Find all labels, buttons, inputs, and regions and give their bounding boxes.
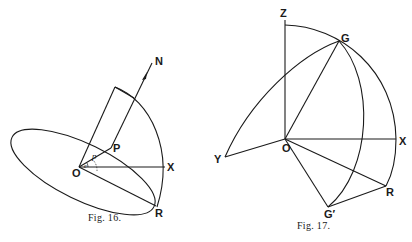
arrow-head-icon	[142, 72, 147, 80]
label-r: R	[155, 207, 163, 219]
arc-g-gprime	[328, 41, 364, 207]
label-o: O	[72, 167, 81, 179]
label-r-17: R	[386, 186, 394, 198]
caption-fig17: Fig. 17.	[297, 220, 330, 231]
label-x: X	[167, 161, 175, 173]
label-z: Z	[280, 7, 287, 19]
label-o-17: O	[282, 142, 291, 154]
label-x-17: X	[399, 135, 407, 147]
label-angle-e: e	[84, 163, 87, 169]
label-p: P	[113, 142, 120, 154]
figure-16: N P O X R p e Fig. 16.	[0, 55, 175, 232]
line-gprime-r	[328, 186, 386, 207]
label-g-prime: G′	[324, 208, 336, 220]
orbit-ellipse	[0, 112, 166, 232]
line-o-r	[79, 167, 156, 206]
line-o-g	[285, 41, 339, 139]
label-g: G	[341, 32, 350, 44]
label-n: N	[155, 55, 163, 67]
caption-fig16: Fig. 16.	[88, 212, 121, 223]
figure-17: Z G O X Y R G′ Fig. 17.	[214, 7, 407, 231]
diagram-canvas: N P O X R p e Fig. 16. Z G O X Y	[0, 0, 412, 242]
angle-arc-e	[87, 163, 88, 167]
axis-y	[225, 139, 285, 157]
arc-z-x-r	[285, 25, 396, 186]
label-angle-p: p	[91, 151, 97, 161]
label-y: Y	[214, 153, 222, 165]
